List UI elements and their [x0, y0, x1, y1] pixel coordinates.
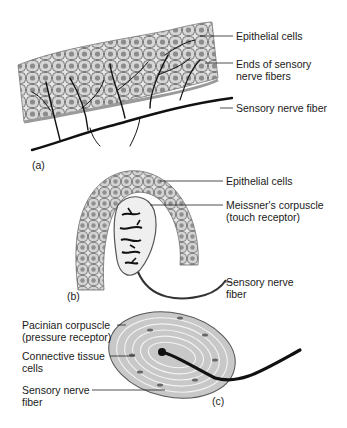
nerve-ending: [158, 348, 166, 356]
panel-label-c: (c): [212, 395, 224, 407]
label-sensory-nerve-fiber-a: Sensory nerve fiber: [236, 102, 327, 114]
label-meissners-corpuscle: Meissner's corpuscle(touch receptor): [226, 199, 324, 223]
panel-label-b: (b): [67, 290, 80, 302]
panel-label-a: (a): [32, 159, 45, 171]
label-sensory-nerve-fiber-c: Sensory nervefiber: [22, 384, 90, 408]
label-pacinian-corpuscle: Pacinian corpuscle(pressure receptor): [22, 319, 111, 343]
panel-b-nerve-fiber: [138, 272, 226, 298]
label-sensory-nerve-fiber-b: Sensory nervefiber: [226, 276, 294, 300]
meissner-corpuscle: [114, 197, 156, 275]
label-connective-tissue-cells: Connective tissuecells: [22, 350, 105, 374]
label-ends-of-sensory-nerve-fibers: Ends of sensorynerve fibers: [236, 58, 311, 82]
label-epithelial-cells-b: Epithelial cells: [226, 175, 293, 187]
label-epithelial-cells-a: Epithelial cells: [236, 30, 303, 42]
